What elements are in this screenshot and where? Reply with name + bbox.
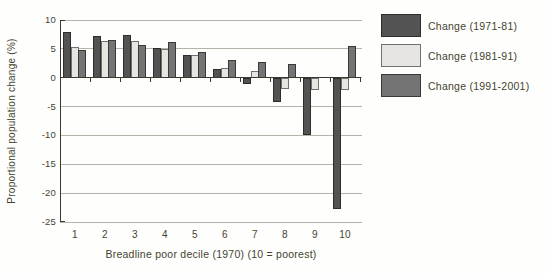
axis-tick: [180, 78, 181, 82]
gridline: [60, 222, 362, 223]
x-tick-label: 9: [300, 229, 330, 240]
bar: [168, 42, 176, 78]
gridline: [60, 20, 362, 21]
bar: [348, 46, 356, 78]
y-tick-label: -15: [24, 158, 56, 170]
x-tick-label: 8: [270, 229, 300, 240]
bar: [138, 45, 146, 77]
y-tick-label: -25: [24, 216, 56, 228]
legend-item: Change (1971-81): [381, 14, 529, 37]
bar: [333, 78, 341, 210]
bar: [311, 78, 319, 91]
x-axis-title: Breadline poor decile (1970) (10 = poore…: [60, 248, 362, 260]
legend-item: Change (1981-91): [381, 44, 529, 67]
legend-swatch: [381, 14, 421, 37]
y-tick-label: -20: [24, 187, 56, 199]
axis-tick: [90, 78, 91, 82]
axis-corner-top: [60, 20, 65, 21]
legend-item: Change (1991-2001): [381, 74, 529, 97]
gridline: [60, 193, 362, 194]
y-tick-label: -5: [24, 101, 56, 113]
y-axis-line: [60, 20, 61, 222]
bar: [258, 62, 266, 78]
y-tick-label: 10: [24, 14, 56, 26]
bar: [288, 64, 296, 78]
population-change-bar-chart: 1050-5-10-15-20-2512345678910 Proportion…: [0, 0, 546, 277]
legend: Change (1971-81)Change (1981-91)Change (…: [381, 14, 529, 104]
legend-label: Change (1981-91): [428, 50, 517, 62]
legend-swatch: [381, 74, 421, 97]
x-tick-label: 6: [210, 229, 240, 240]
axis-tick: [210, 78, 211, 82]
x-tick-label: 5: [180, 229, 210, 240]
x-tick-label: 4: [150, 229, 180, 240]
axis-tick: [330, 78, 331, 82]
bar: [198, 52, 206, 77]
bar: [108, 40, 116, 78]
axis-tick: [120, 78, 121, 82]
y-axis-title: Proportional population change (%): [6, 38, 17, 203]
bar: [78, 50, 86, 78]
axis-tick: [270, 78, 271, 82]
legend-swatch: [381, 44, 421, 67]
axis-tick: [150, 78, 151, 82]
axis-corner-bottom: [60, 221, 65, 222]
y-tick-label: -10: [24, 129, 56, 141]
gridline: [60, 106, 362, 107]
x-tick-label: 10: [330, 229, 360, 240]
x-tick-label: 2: [90, 229, 120, 240]
x-tick-label: 7: [240, 229, 270, 240]
bar: [341, 78, 349, 90]
legend-label: Change (1971-81): [428, 20, 517, 32]
y-tick-label: 0: [24, 72, 56, 84]
bar: [243, 78, 251, 84]
gridline: [60, 164, 362, 165]
axis-tick: [240, 78, 241, 82]
x-tick-label: 1: [60, 229, 90, 240]
x-tick-label: 3: [120, 229, 150, 240]
legend-label: Change (1991-2001): [428, 80, 529, 92]
axis-tick: [360, 78, 361, 82]
gridline: [60, 135, 362, 136]
y-tick-label: 5: [24, 43, 56, 55]
bar: [228, 60, 236, 77]
axis-tick: [300, 78, 301, 82]
bar: [281, 78, 289, 90]
